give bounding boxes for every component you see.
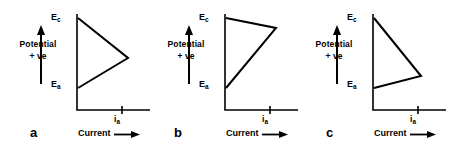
potential-arrow-head-b <box>185 25 193 35</box>
voltammogram-trace-c <box>374 18 421 88</box>
panel-a: Potential + ve Ec Ea ia Current a <box>0 0 152 149</box>
potential-axis-label-a: Potential + ve <box>8 38 68 62</box>
current-tick-label-a: ia <box>114 114 120 125</box>
panel-letter-c: c <box>326 126 333 140</box>
potential-axis-label-line1: Potential <box>316 39 353 49</box>
potential-axis-label-line1: Potential <box>168 39 205 49</box>
potential-axis-label-line2: + ve <box>156 50 216 62</box>
electrochemistry-figure: Potential + ve Ec Ea ia Current a Potent… <box>0 0 454 149</box>
current-tick-subscript: a <box>116 118 120 125</box>
e-anodic-label-b: Ea <box>199 79 209 90</box>
voltammogram-trace-b <box>226 18 276 88</box>
potential-axis-label-line1: Potential <box>20 39 57 49</box>
e-cathodic-subscript: c <box>353 16 357 23</box>
potential-axis-label-line2: + ve <box>304 50 364 62</box>
e-cathodic-subscript: c <box>205 16 209 23</box>
e-anodic-label-a: Ea <box>51 79 61 90</box>
potential-axis-label-b: Potential + ve <box>156 38 216 62</box>
e-anodic-subscript: a <box>353 83 357 90</box>
current-tick-subscript: a <box>412 118 416 125</box>
e-cathodic-label-a: Ec <box>51 12 61 23</box>
potential-axis-label-line2: + ve <box>8 50 68 62</box>
current-arrow-icon-a <box>114 130 140 139</box>
current-axis-text: Current <box>78 128 111 139</box>
e-anodic-label-c: Ea <box>347 79 357 90</box>
current-tick-subscript: a <box>264 118 268 125</box>
axes-a <box>77 14 150 110</box>
potential-axis-label-c: Potential + ve <box>304 38 364 62</box>
panel-b: Potential + ve Ec Ea ia Current b <box>148 0 300 149</box>
plot-c <box>296 0 448 149</box>
e-anodic-subscript: a <box>57 83 61 90</box>
e-cathodic-label-c: Ec <box>347 12 357 23</box>
current-arrow-icon-b <box>262 130 288 139</box>
current-arrow-icon-c <box>410 130 436 139</box>
current-axis-text: Current <box>226 128 259 139</box>
axes-b <box>225 14 298 110</box>
panel-letter-a: a <box>30 126 37 140</box>
potential-arrow-head-c <box>333 25 341 35</box>
plot-a <box>0 0 152 149</box>
e-anodic-subscript: a <box>205 83 209 90</box>
voltammogram-trace-a <box>78 18 128 88</box>
potential-arrow-head-a <box>37 25 45 35</box>
plot-b <box>148 0 300 149</box>
current-axis-text: Current <box>374 128 407 139</box>
current-axis-label-b: Current <box>226 128 288 139</box>
current-tick-label-b: ia <box>262 114 268 125</box>
e-cathodic-subscript: c <box>57 16 61 23</box>
current-axis-label-a: Current <box>78 128 140 139</box>
current-tick-label-c: ia <box>410 114 416 125</box>
current-axis-label-c: Current <box>374 128 436 139</box>
panel-letter-b: b <box>174 126 182 140</box>
panel-c: Potential + ve Ec Ea ia Current c <box>296 0 448 149</box>
e-cathodic-label-b: Ec <box>199 12 209 23</box>
